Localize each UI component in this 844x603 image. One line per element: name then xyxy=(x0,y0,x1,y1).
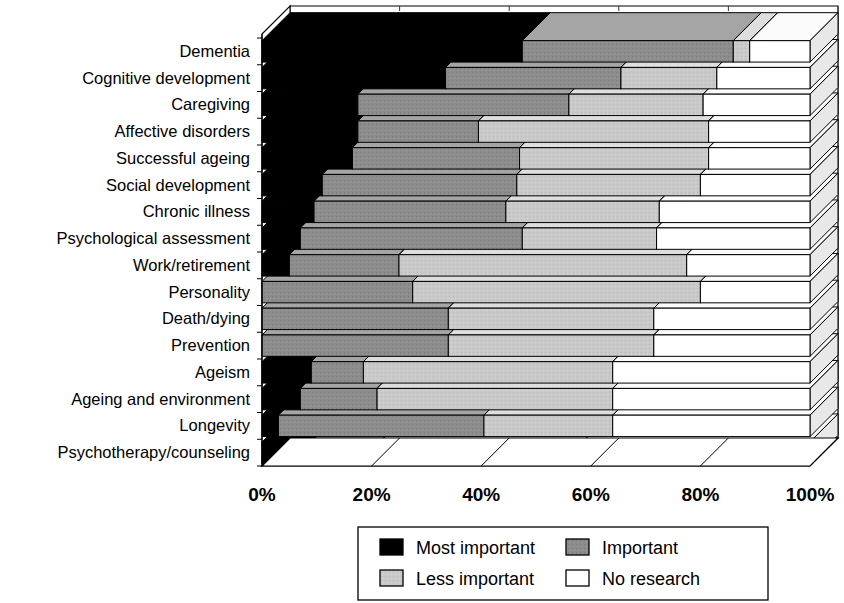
bar-segment xyxy=(262,13,550,62)
legend-label: No research xyxy=(602,569,700,589)
category-label: Affective disorders xyxy=(115,122,250,140)
legend-swatch xyxy=(566,570,589,586)
category-label: Work/retirement xyxy=(133,256,250,274)
category-label: Death/dying xyxy=(162,309,250,327)
value-axis-labels: 0%20%40%60%80%100% xyxy=(248,484,834,505)
category-label: Psychotherapy/counseling xyxy=(57,443,250,461)
legend-item: Important xyxy=(566,538,678,558)
category-label: Successful ageing xyxy=(116,149,250,167)
chart-canvas: DementiaCognitive developmentCaregivingA… xyxy=(0,0,844,603)
legend-label: Less important xyxy=(416,569,534,589)
category-axis-labels: DementiaCognitive developmentCaregivingA… xyxy=(56,42,250,461)
bar-row xyxy=(262,13,838,62)
x-axis-tick-label: 40% xyxy=(462,484,500,505)
legend-item: Most important xyxy=(380,538,535,558)
legend-swatch xyxy=(380,539,403,555)
x-axis-tick-label: 80% xyxy=(681,484,719,505)
bar-segment xyxy=(522,13,761,62)
x-axis-tick-label: 0% xyxy=(248,484,276,505)
category-label: Prevention xyxy=(171,336,250,354)
legend-label: Most important xyxy=(416,538,535,558)
category-label: Psychological assessment xyxy=(56,229,250,247)
stacked-bar-chart: DementiaCognitive developmentCaregivingA… xyxy=(0,0,844,603)
category-label: Ageing and environment xyxy=(71,390,250,408)
legend-label: Important xyxy=(602,538,678,558)
category-label: Personality xyxy=(168,283,250,301)
legend: Most importantImportantLess importantNo … xyxy=(358,527,768,600)
legend-swatch xyxy=(380,570,403,586)
x-axis-tick-label: 100% xyxy=(786,484,835,505)
legend-item: Less important xyxy=(380,569,534,589)
category-label: Social development xyxy=(106,176,250,194)
category-label: Ageism xyxy=(195,363,250,381)
legend-swatch xyxy=(566,539,589,555)
category-label: Cognitive development xyxy=(82,69,250,87)
legend-item: No research xyxy=(566,569,700,589)
x-axis-tick-label: 60% xyxy=(572,484,610,505)
bars-layer xyxy=(262,13,838,464)
category-label: Chronic illness xyxy=(143,202,250,220)
category-label: Caregiving xyxy=(171,95,250,113)
x-axis-tick-label: 20% xyxy=(353,484,391,505)
category-label: Dementia xyxy=(179,42,250,60)
category-label: Longevity xyxy=(179,416,250,434)
